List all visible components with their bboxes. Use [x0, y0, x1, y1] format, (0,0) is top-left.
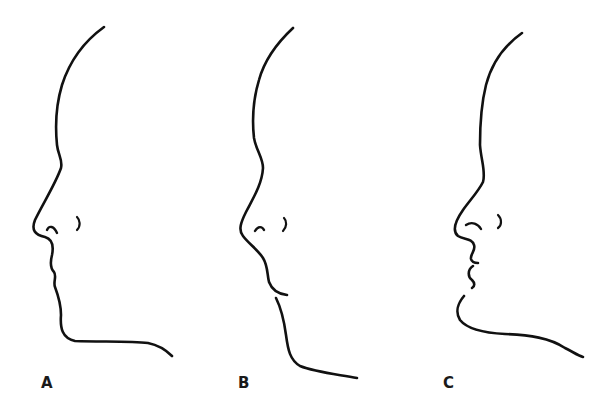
- profile-c: [455, 33, 583, 357]
- profile-c-face-outline: [455, 33, 522, 263]
- profile-b-face-outline: [240, 28, 293, 295]
- profile-b-ear-mark: [283, 218, 286, 231]
- profile-c-lower-lip: [469, 266, 475, 288]
- profile-diagram-canvas: [0, 0, 613, 402]
- profile-c-ear-mark: [498, 215, 501, 228]
- profile-b-label: B: [238, 374, 249, 392]
- profile-a-label: A: [41, 374, 53, 392]
- profile-c-nostril: [466, 223, 481, 229]
- profile-c-chin-neck: [457, 296, 583, 357]
- profile-a-ear-mark: [77, 217, 80, 230]
- profile-a-nostril: [47, 227, 57, 233]
- profile-b-chin-neck: [276, 298, 357, 378]
- profile-a: [33, 27, 172, 356]
- profile-b: [240, 28, 357, 378]
- profile-c-label: C: [443, 374, 454, 392]
- profile-a-face-outline: [33, 27, 172, 356]
- profile-b-nostril: [255, 227, 264, 231]
